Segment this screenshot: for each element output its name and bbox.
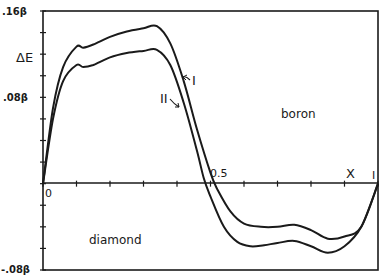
curve-II-label: II — [160, 91, 168, 106]
x-axis-label: X — [346, 166, 355, 181]
curve-II-leader — [170, 99, 179, 107]
x-tick-label-half: 0.5 — [210, 167, 228, 180]
y-tick-label-mid: .08β — [3, 92, 28, 103]
energy-difference-chart: .16β ΔE .08β -.08β 0 0.5 I X boron diamo… — [0, 0, 385, 277]
region-label-diamond: diamond — [89, 233, 142, 247]
x-tick-label-one: I — [372, 169, 375, 182]
plot-frame — [43, 11, 378, 270]
x-tick-label-zero: 0 — [45, 187, 52, 200]
region-label-boron: boron — [281, 107, 316, 121]
curve-II — [43, 49, 378, 253]
curve-I-label: I — [192, 73, 196, 88]
y-tick-label-bottom: -.08β — [1, 264, 30, 275]
curve-I — [43, 25, 378, 239]
y-axis-label: ΔE — [16, 50, 33, 65]
y-tick-label-top: .16β — [2, 6, 27, 17]
